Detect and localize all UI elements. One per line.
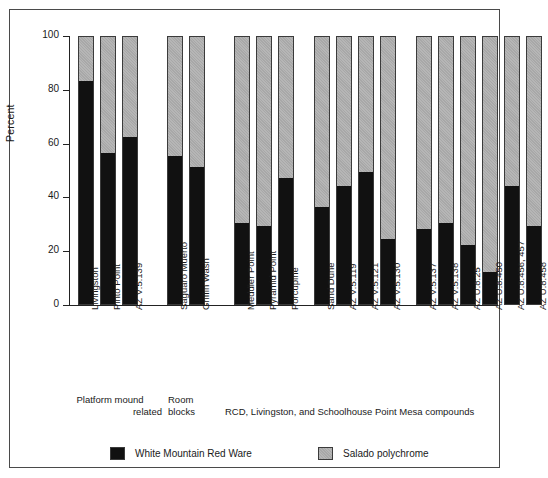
x-axis-tick-label: Griffin Wash — [201, 258, 211, 310]
bar-segment-salado-polychrome — [417, 37, 431, 231]
bar-segment-salado-polychrome — [101, 37, 115, 155]
x-axis-tick-label: AZ V:5:138 — [450, 263, 460, 310]
x-axis-tick-label: AZ V:5:137 — [428, 263, 438, 310]
y-axis-tick-label: 40 — [48, 190, 59, 202]
y-axis-tick-mark — [63, 305, 69, 306]
y-axis-tick-label: 0 — [53, 298, 59, 310]
x-axis-tick-label: Pyramid Point — [268, 251, 278, 310]
bar-porcupine — [278, 36, 294, 305]
bar-segment-salado-polychrome — [483, 37, 497, 274]
y-axis-tick: 0 — [63, 305, 69, 306]
legend-swatch-icon-salado-polychrome — [318, 447, 333, 460]
bar-segment-salado-polychrome — [79, 37, 93, 83]
bar-segment-salado-polychrome — [439, 37, 453, 225]
bar-segment-salado-polychrome — [527, 37, 541, 228]
group-caption-platform-mound-line1: Platform mound — [58, 394, 162, 406]
bar-az-u-8-25 — [460, 36, 476, 305]
group-caption-platform-mound: Platform mound related — [58, 394, 162, 417]
x-axis-tick-label: AZ V:5:119 — [348, 264, 358, 310]
x-axis-tick-label: AZ U:8:456, 457 — [516, 241, 526, 310]
x-axis-tick-label: Sand Dune — [326, 262, 336, 310]
group-caption-room-blocks: Room blocks — [168, 394, 228, 417]
bar-segment-salado-polychrome — [381, 37, 395, 241]
x-axis-tick-label: AZ V:5:139 — [134, 263, 144, 310]
group-caption-compounds-text: RCD, Livingston, and Schoolhouse Point M… — [225, 406, 474, 417]
legend-swatch-icon-white-mountain-red-ware — [110, 447, 125, 460]
bar-segment-salado-polychrome — [190, 37, 204, 169]
y-axis-tick-label: 80 — [48, 83, 59, 95]
x-axis-tick-label: AZ V:5:130 — [392, 263, 402, 310]
x-axis-tick-label: Meddler Point — [246, 251, 256, 310]
x-axis-tick-label: AZ U:8:458 — [538, 262, 548, 310]
y-axis-tick-label: 100 — [42, 29, 59, 41]
legend-item-salado-polychrome: Salado polychrome — [318, 447, 429, 460]
y-axis-title: Percent — [4, 104, 16, 142]
x-axis-tick-label: Porcupine — [290, 267, 300, 310]
x-axis-tick-label: Livingston — [90, 267, 100, 310]
figure-frame: Percent 020406080100 LivingstonPinto Poi… — [9, 9, 500, 468]
bar-segment-salado-polychrome — [337, 37, 351, 188]
bar-segment-salado-polychrome — [123, 37, 137, 139]
bar-segment-salado-polychrome — [461, 37, 475, 247]
bar-segment-salado-polychrome — [235, 37, 249, 225]
x-axis-tick-label: AZ U:8:25 — [472, 267, 482, 310]
x-axis-tick-label: Saguaro Muerto — [179, 242, 189, 310]
bar-segment-salado-polychrome — [279, 37, 293, 180]
bar-segment-salado-polychrome — [257, 37, 271, 228]
legend-label-white-mountain-red-ware: White Mountain Red Ware — [135, 448, 252, 459]
legend-label-salado-polychrome: Salado polychrome — [343, 448, 429, 459]
y-axis-tick-label: 20 — [48, 244, 59, 256]
bar-segment-salado-polychrome — [168, 37, 182, 158]
x-axis-tick-label: Pinto Point — [112, 264, 122, 310]
group-caption-room-blocks-line1: Room — [168, 394, 228, 406]
bar-segment-salado-polychrome — [359, 37, 373, 174]
bar-segment-salado-polychrome — [315, 37, 329, 209]
group-caption-platform-mound-line2: related — [58, 406, 162, 418]
legend-item-white-mountain-red-ware: White Mountain Red Ware — [110, 447, 252, 460]
bar-livingston — [78, 36, 94, 305]
x-axis-tick-label: AZ U:8:450 — [494, 262, 504, 310]
y-axis-tick-label: 60 — [48, 137, 59, 149]
group-caption-room-blocks-line2: blocks — [168, 406, 228, 418]
chart-legend: White Mountain Red Ware Salado polychrom… — [10, 447, 521, 467]
group-caption-compounds: RCD, Livingston, and Schoolhouse Point M… — [225, 406, 474, 418]
x-axis-tick-label: AZ V:5:121 — [370, 263, 380, 310]
bar-segment-salado-polychrome — [505, 37, 519, 188]
